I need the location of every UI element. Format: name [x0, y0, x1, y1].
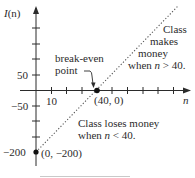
break-even-chart: I(n) n 50 −50 −200 10 (0, −200) (40, 0) …	[0, 0, 195, 178]
loses-money-line2: when n < 40.	[78, 129, 136, 141]
makes-money-line1: Class	[163, 23, 187, 35]
x-axis	[20, 87, 188, 94]
makes-money-line4: when n > 40.	[128, 59, 186, 71]
y-axis	[32, 8, 40, 166]
break-even-arrowhead-icon	[91, 83, 96, 89]
point-break-even	[94, 88, 100, 94]
tick-label-10: 10	[46, 95, 58, 107]
x-axis-label: n	[183, 94, 189, 106]
y-axis-arrow-icon	[33, 6, 39, 14]
tick-label-neg200: −200	[3, 146, 26, 158]
tick-label-50: 50	[17, 69, 29, 81]
break-even-annotation-line2: point	[55, 64, 78, 76]
loses-money-line1: Class loses money	[78, 117, 160, 129]
tick-label-neg50: −50	[11, 100, 29, 112]
makes-money-line2: makes	[150, 35, 178, 47]
point-origin-label: (0, −200)	[41, 147, 82, 160]
point-break-even-label: (40, 0)	[94, 94, 124, 107]
point-origin	[33, 149, 38, 154]
break-even-annotation-line1: break-even	[55, 52, 104, 64]
clipped-caption	[40, 175, 130, 178]
y-axis-label: I(n)	[3, 7, 21, 20]
break-even-arrow-icon	[84, 71, 93, 84]
x-axis-arrow-icon	[183, 88, 191, 94]
makes-money-line3: money	[138, 47, 168, 59]
